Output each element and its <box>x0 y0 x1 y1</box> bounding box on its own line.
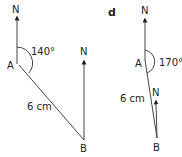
bearing-label: 140° <box>31 46 55 57</box>
diagram-d: d N 170° A 6 cm N B <box>108 5 182 153</box>
bearing-label: 170° <box>159 57 182 68</box>
part-label: d <box>108 6 116 19</box>
north-label-b: N <box>152 87 159 98</box>
point-a-label: A <box>135 58 142 69</box>
north-label-a: N <box>141 5 148 16</box>
distance-label: 6 cm <box>27 101 52 112</box>
bearing-diagrams: N 140° A 6 cm N B d N 170° A 6 cm N B <box>0 0 182 157</box>
point-a-label: A <box>7 60 14 71</box>
point-b-label: B <box>80 143 87 154</box>
north-label-a: N <box>12 4 19 15</box>
distance-label: 6 cm <box>120 93 145 104</box>
segment-ab <box>145 60 157 138</box>
north-label-b: N <box>80 46 87 57</box>
point-b-label: B <box>153 142 160 153</box>
diagram-left: N 140° A 6 cm N B <box>7 4 87 154</box>
